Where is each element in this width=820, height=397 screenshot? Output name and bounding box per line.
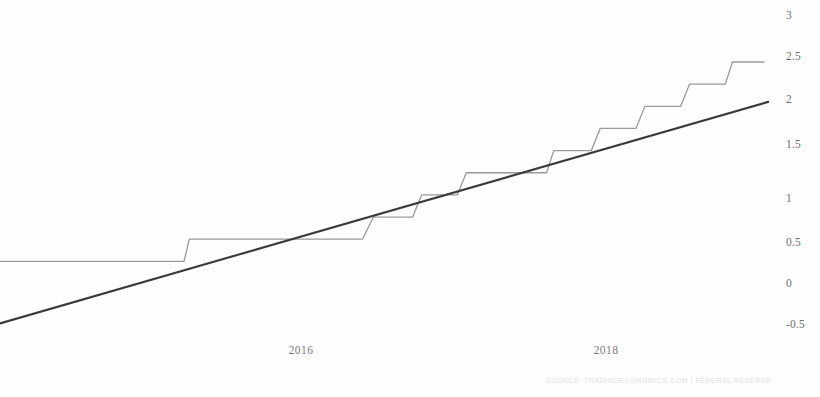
x-tick-label: 2018 [594,344,619,356]
chart-container: 32.521.510.50-0.5 20162018 SOURCE: TRADI… [0,0,820,397]
x-tick-label: 2016 [289,344,314,356]
source-attribution: SOURCE: TRADINGECONOMICS.COM | FEDERAL R… [546,377,771,384]
x-axis: 20162018 [0,0,820,397]
